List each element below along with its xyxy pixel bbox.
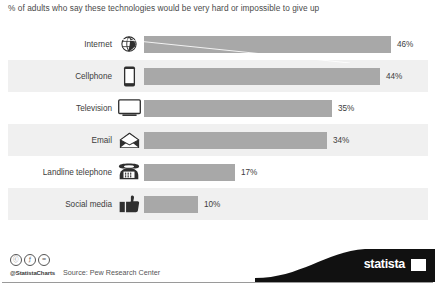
bar-chart-rows: Internet 46% Cellphone <box>8 28 428 220</box>
bar-area: 44% <box>144 60 428 92</box>
smartphone-icon <box>114 66 144 87</box>
rotary-telephone-icon <box>114 163 144 181</box>
bar-area: 10% <box>144 188 428 220</box>
chart-container: % of adults who say these technologies w… <box>0 0 435 288</box>
category-label: Internet <box>8 40 114 49</box>
bar <box>144 36 391 53</box>
bar <box>144 68 380 85</box>
envelope-icon <box>114 132 144 149</box>
statista-logo: statista <box>255 248 435 282</box>
creative-commons-badges: ⓒ ƒ = <box>10 254 50 266</box>
bar-value-label: 46% <box>397 40 413 49</box>
bar-value-label: 34% <box>333 136 349 145</box>
chart-row-landline-telephone: Landline telephone 17% <box>8 156 428 188</box>
bar-value-label: 44% <box>386 72 402 81</box>
category-label: Social media <box>8 200 114 209</box>
bar-value-label: 35% <box>338 104 354 113</box>
chart-row-social-media: Social media 10% <box>8 188 428 220</box>
category-label: Email <box>8 136 114 145</box>
bar-value-label: 10% <box>204 200 220 209</box>
bar <box>144 196 198 213</box>
bar-value-label: 17% <box>241 168 257 177</box>
footer-credits: @StatistaCharts Source: Pew Research Cen… <box>10 268 160 277</box>
chart-title: % of adults who say these technologies w… <box>8 2 319 14</box>
source-label: Source: Pew Research Center <box>63 268 160 277</box>
cc-by-icon: ƒ <box>24 254 36 266</box>
bar <box>144 164 235 181</box>
statista-handle: @StatistaCharts <box>10 270 55 276</box>
bar-area: 34% <box>144 124 428 156</box>
globe-icon <box>114 35 144 53</box>
bar-area: 17% <box>144 156 428 188</box>
category-label: Television <box>8 104 114 113</box>
statista-logo-mark <box>411 259 426 271</box>
category-label: Landline telephone <box>8 168 114 177</box>
chart-row-cellphone: Cellphone 44% <box>8 60 428 92</box>
television-icon <box>114 99 144 117</box>
category-label: Cellphone <box>8 72 114 81</box>
chart-row-email: Email 34% <box>8 124 428 156</box>
chart-row-television: Television 35% <box>8 92 428 124</box>
bar-area: 35% <box>144 92 428 124</box>
bar <box>144 132 327 149</box>
chart-row-internet: Internet 46% <box>8 28 428 60</box>
bar <box>144 100 332 117</box>
chart-footer: ⓒ ƒ = @StatistaCharts Source: Pew Resear… <box>0 242 435 288</box>
cc-nd-icon: = <box>38 254 50 266</box>
footer-divider <box>2 282 433 283</box>
thumbs-up-icon <box>114 195 144 213</box>
statista-wordmark: statista <box>364 257 405 271</box>
creative-commons-icon: ⓒ <box>10 254 22 266</box>
bar-area: 46% <box>144 28 428 60</box>
